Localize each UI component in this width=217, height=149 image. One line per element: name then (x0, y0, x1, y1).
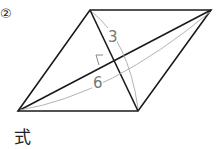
right-angle-mark (96, 55, 103, 65)
formula-label: 式 (14, 127, 31, 147)
short-diagonal-label: 3 (108, 28, 118, 46)
rhombus-diagram: 3 6 (0, 0, 217, 149)
long-diagonal (18, 10, 211, 111)
long-diagonal-label: 6 (93, 74, 103, 92)
